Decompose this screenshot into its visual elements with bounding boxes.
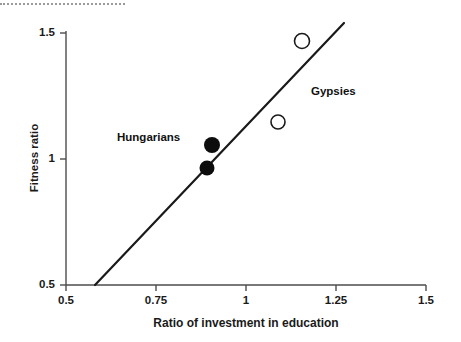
x-tick-label-0.75: 0.75 [136,294,176,306]
plot-area [0,0,461,342]
x-tick-label-1: 1 [226,294,266,306]
x-tick-label-1.25: 1.25 [316,294,356,306]
data-point-gypsies-2 [271,115,285,129]
data-point-hungarians-2 [200,161,215,176]
y-axis-title: Fitness ratio [28,98,40,218]
scatter-chart-figure: 1.5 1 0.5 0.5 0.75 1 1.25 1.5 Fitness ra… [0,0,461,342]
data-point-gypsies-1 [295,34,310,49]
regression-line [95,23,344,285]
y-tick-label-0.5: 0.5 [22,278,55,290]
x-tick-label-1.5: 1.5 [406,294,446,306]
data-point-hungarians-1 [204,137,220,153]
x-tick-label-0.5: 0.5 [46,294,86,306]
series-label-hungarians: Hungarians [117,131,180,143]
x-axis-title: Ratio of investment in education [66,316,426,330]
y-tick-label-1.5: 1.5 [22,26,55,38]
series-label-gypsies: Gypsies [311,85,356,97]
